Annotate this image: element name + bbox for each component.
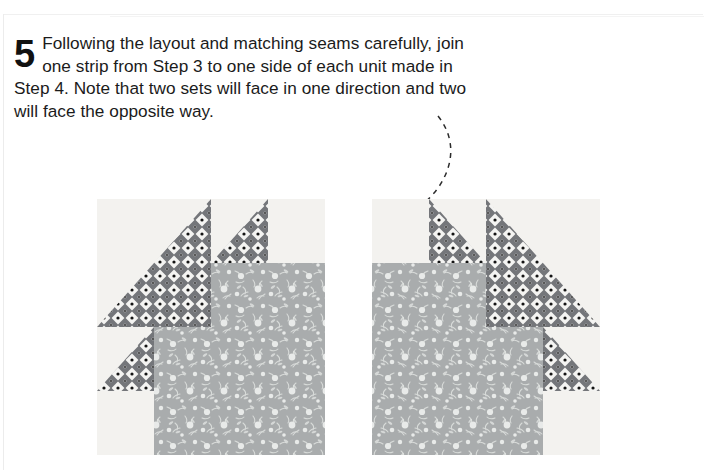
page-scan-edge-left xyxy=(3,14,4,470)
step-number: 5 xyxy=(14,34,34,74)
quilt-block-left-diagram xyxy=(97,199,325,455)
callout-dashed-line xyxy=(414,116,451,210)
page-scan-edge-top-secondary xyxy=(110,16,704,17)
instruction-block: 5 Following the layout and matching seam… xyxy=(14,32,484,122)
instruction-text: Following the layout and matching seams … xyxy=(14,33,466,121)
quilt-block-left xyxy=(97,199,325,455)
quilt-block-right-diagram xyxy=(372,199,600,455)
instruction-page: 5 Following the layout and matching seam… xyxy=(0,0,704,470)
page-scan-edge-top xyxy=(3,14,703,15)
quilt-block-right xyxy=(372,199,600,455)
